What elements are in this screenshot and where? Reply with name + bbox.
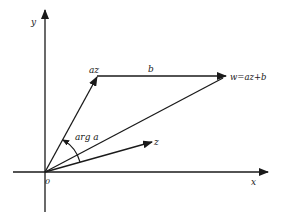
b-label: b <box>148 64 154 74</box>
origin-label: 0 <box>45 177 50 186</box>
arg-a-label: arg a <box>75 132 99 142</box>
vector-z <box>45 142 152 172</box>
x-axis-label: x <box>251 177 256 187</box>
y-axis-label: y <box>30 17 37 27</box>
vector-w <box>45 78 223 172</box>
z-label: z <box>153 137 159 147</box>
w-label: w=az+b <box>230 72 267 82</box>
complex-plane-diagram: y x 0 az b w=az+b z arg a <box>0 0 281 222</box>
az-label: az <box>89 65 99 75</box>
